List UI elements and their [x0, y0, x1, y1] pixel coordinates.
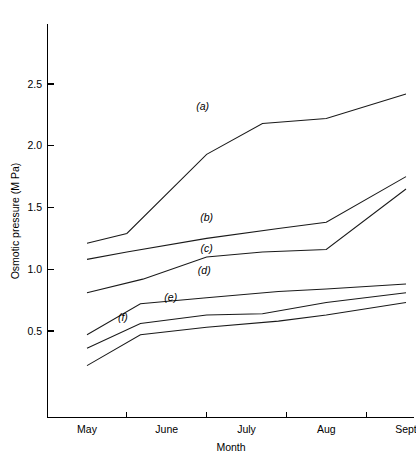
- series-label-c: (c): [201, 242, 213, 254]
- y-tick-label: 1.5: [27, 201, 42, 213]
- y-tick-label: 2.5: [27, 78, 42, 90]
- x-tick-label: Aug: [317, 423, 336, 435]
- y-tick-label: 1.0: [27, 263, 42, 275]
- y-tick-label: 2.0: [27, 139, 42, 151]
- series-lines-group: [87, 94, 406, 366]
- x-axis-tick-labels: MayJuneJulyAugSept: [77, 423, 416, 435]
- series-label-e: (e): [164, 291, 177, 303]
- x-tick-label: July: [237, 423, 256, 435]
- osmotic-pressure-chart: 0.51.01.52.02.5 MayJuneJulyAugSept (a)(b…: [0, 0, 416, 454]
- chart-canvas: 0.51.01.52.02.5 MayJuneJulyAugSept (a)(b…: [0, 0, 416, 454]
- x-tick-label: June: [155, 423, 178, 435]
- series-label-d: (d): [198, 264, 211, 276]
- series-labels-group: (a)(b)(c)(d)(e)(f): [118, 100, 213, 323]
- series-line-f: [87, 303, 406, 366]
- series-line-b: [87, 177, 406, 260]
- series-line-d: [87, 284, 406, 335]
- axes-group: [48, 24, 415, 418]
- x-axis-ticks: [127, 412, 366, 418]
- series-label-f: (f): [118, 311, 128, 323]
- y-tick-label: 0.5: [27, 325, 42, 337]
- y-axis-tick-labels: 0.51.01.52.02.5: [27, 78, 42, 337]
- series-line-a: [87, 94, 406, 243]
- x-tick-label: May: [77, 423, 98, 435]
- x-axis-title: Month: [216, 441, 245, 453]
- series-label-a: (a): [196, 100, 209, 112]
- series-line-e: [87, 293, 406, 349]
- y-axis-ticks: [48, 84, 54, 331]
- series-label-b: (b): [200, 211, 213, 223]
- x-tick-label: Sept: [395, 423, 416, 435]
- y-axis-title: Osmotic pressure (M Pa): [9, 163, 21, 280]
